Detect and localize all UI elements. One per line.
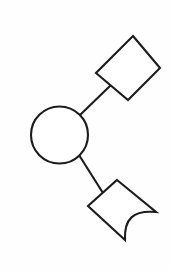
edge-circle-to-curved-quad <box>79 155 103 193</box>
diagram-canvas <box>0 0 170 271</box>
diagram-svg <box>0 0 170 271</box>
node-circle[interactable] <box>31 107 88 164</box>
node-curved-corner-quadrilateral[interactable] <box>88 180 156 240</box>
edge-circle-to-rectangle <box>80 85 111 115</box>
